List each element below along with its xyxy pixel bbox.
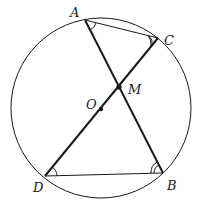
label-b: B — [166, 178, 177, 193]
label-d: D — [32, 180, 44, 195]
geometry-diagram: A C M O D B — [0, 0, 198, 209]
label-a: A — [69, 5, 79, 20]
angle-mark-d — [52, 167, 57, 176]
label-c: C — [164, 33, 174, 48]
angle-mark-b-inner — [154, 165, 159, 173]
label-o: O — [86, 97, 97, 112]
point-m — [116, 84, 121, 89]
point-o — [99, 107, 103, 111]
segment-db — [45, 173, 163, 176]
label-m: M — [127, 82, 142, 97]
angle-mark-a — [90, 23, 96, 30]
